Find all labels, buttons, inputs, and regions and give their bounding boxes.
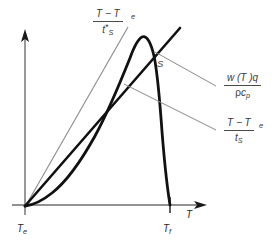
figure-canvas: T − T t*S e w (T )q ρcp T − T tS e S T T…	[0, 0, 272, 248]
te-sub: e	[23, 227, 27, 236]
generation-label-denominator: ρcp	[224, 86, 261, 100]
tangent-label-numerator-sub: e	[131, 13, 135, 21]
tangent-label-denominator: t*S	[93, 22, 123, 37]
x-tick-label-tf: Tf	[163, 224, 171, 235]
tangent-line	[25, 27, 128, 207]
tangent-label-numerator: T − T	[93, 8, 123, 21]
x-tick-label-te: Te	[17, 224, 27, 235]
generation-curve-label: w (T )q ρcp	[224, 72, 261, 99]
x-axis-label: T	[186, 210, 192, 220]
removal-label-numerator: T − T	[224, 117, 254, 130]
removal-line	[25, 28, 180, 206]
intersection-point-label: S	[157, 59, 163, 69]
tf-sub: f	[169, 227, 171, 236]
removal-label-numerator-sub: e	[259, 122, 263, 130]
generation-label-numerator: w (T )q	[224, 72, 261, 85]
removal-line-label: T − T tS	[224, 117, 254, 144]
leader-line-removal	[124, 84, 216, 130]
removal-label-denominator: tS	[224, 131, 254, 145]
tangent-line-label: T − T t*S	[93, 8, 123, 36]
leader-line-generation	[155, 52, 216, 86]
